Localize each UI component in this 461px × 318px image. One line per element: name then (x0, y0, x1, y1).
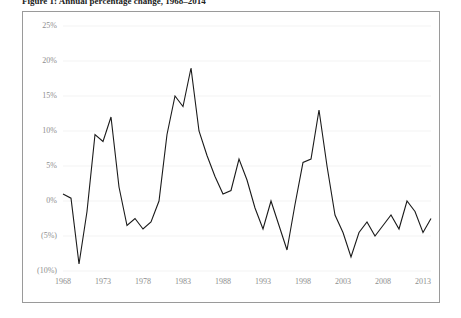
x-tick-label: 1993 (243, 277, 283, 286)
figure-caption: Figure 1: Annual percentage change, 1968… (22, 0, 442, 8)
x-tick-label: 1973 (83, 277, 123, 286)
x-tick-label: 1988 (203, 277, 243, 286)
x-tick-label: 1998 (283, 277, 323, 286)
x-tick-label: 2013 (403, 277, 443, 286)
y-tick-label: 25% (23, 21, 57, 30)
x-tick-label: 1983 (163, 277, 203, 286)
y-tick-label: 20% (23, 56, 57, 65)
x-tick-label: 2008 (363, 277, 403, 286)
plot-area: 25%20%15%10%5%0%(5%)(10%) 19681973197819… (23, 12, 441, 304)
y-tick-label: (10%) (23, 266, 57, 275)
line-chart-svg (23, 12, 441, 304)
y-tick-label: 5% (23, 161, 57, 170)
y-tick-label: (5%) (23, 231, 57, 240)
y-tick-label: 15% (23, 91, 57, 100)
x-tick-label: 2003 (323, 277, 363, 286)
chart-frame: 25%20%15%10%5%0%(5%)(10%) 19681973197819… (22, 11, 440, 303)
x-tick-label: 1968 (43, 277, 83, 286)
y-tick-label: 0% (23, 196, 57, 205)
y-tick-label: 10% (23, 126, 57, 135)
x-tick-label: 1978 (123, 277, 163, 286)
